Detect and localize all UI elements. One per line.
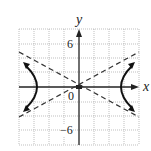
x-axis-arrow-icon	[131, 84, 139, 90]
y-axis-label: y	[76, 13, 82, 27]
y-axis-arrow-icon	[76, 29, 82, 37]
tick-label-6: 6	[67, 38, 73, 50]
tick-label-neg6: −6	[60, 124, 73, 136]
origin-label: 0	[68, 90, 74, 102]
x-axis-label: x	[143, 80, 149, 94]
